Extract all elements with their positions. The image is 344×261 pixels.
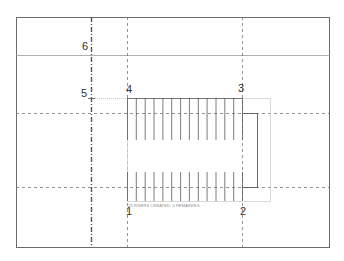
view-frame bbox=[17, 18, 330, 248]
stair-run-bottom[interactable] bbox=[128, 172, 243, 201]
point-label-5: 5 bbox=[81, 88, 87, 99]
stair-run-top[interactable] bbox=[127, 98, 243, 140]
drawing-canvas[interactable] bbox=[0, 0, 344, 261]
point-label-2: 2 bbox=[240, 206, 246, 217]
point-label-4: 4 bbox=[126, 84, 132, 95]
riser-count-hint: 23 RISERS CREATED, 0 REMAINING bbox=[128, 203, 200, 208]
point-label-3: 3 bbox=[238, 83, 244, 94]
landing-outline[interactable] bbox=[242, 114, 258, 188]
point-label-6: 6 bbox=[82, 41, 88, 52]
